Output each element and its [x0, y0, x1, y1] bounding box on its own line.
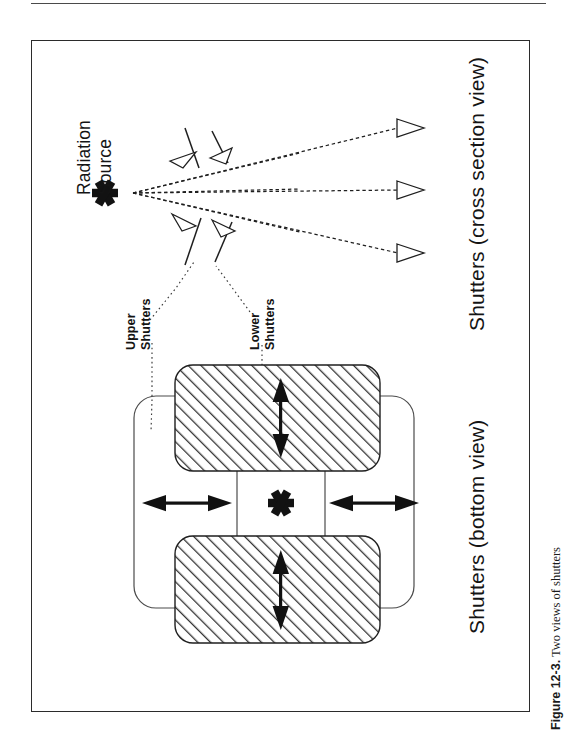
upper-shutters-label-line2: Shutters — [139, 298, 154, 350]
figure-caption-label: Figure 12-3. — [549, 660, 563, 730]
radiation-source-label-line1: Radiation — [74, 120, 95, 195]
figure-caption-text: Two views of shutters — [549, 547, 563, 657]
page-top-rule — [31, 3, 546, 4]
upper-shutters-callout-label: Upper Shutters — [124, 298, 154, 350]
figure-caption: Figure 12-3. Two views of shutters — [549, 547, 564, 730]
radiation-source-label-line2: Source — [95, 120, 116, 195]
radiation-source-label: Radiation Source — [74, 120, 115, 195]
bottom-view-title: Shutters (bottom view) — [465, 420, 490, 634]
lower-shutters-label-line1: Lower — [248, 298, 263, 350]
lower-shutters-callout-label: Lower Shutters — [248, 298, 278, 350]
upper-shutters-label-line1: Upper — [124, 298, 139, 350]
lower-shutters-label-line2: Shutters — [263, 298, 278, 350]
cross-section-view-title: Shutters (cross section view) — [465, 57, 490, 331]
